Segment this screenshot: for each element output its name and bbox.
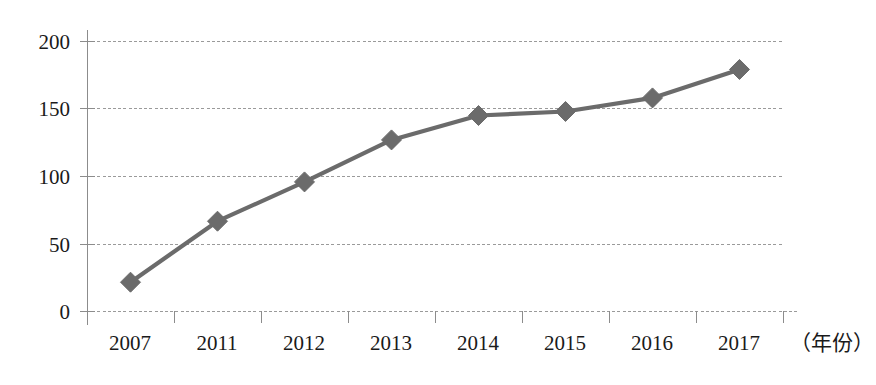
chart-canvas: 200 150 100 50 0 xyxy=(0,0,876,385)
data-series xyxy=(121,59,750,292)
data-point-2014 xyxy=(469,106,489,126)
data-point-2016 xyxy=(643,88,663,108)
data-point-2012 xyxy=(295,172,315,192)
y-axis-label-0: 0 xyxy=(60,300,71,324)
y-axis-label-100: 100 xyxy=(39,165,71,189)
y-axis-label-200: 200 xyxy=(39,30,71,54)
gridlines xyxy=(87,42,798,312)
x-axis-label-2012: 2012 xyxy=(283,331,325,355)
y-axis-label-150: 150 xyxy=(39,97,71,121)
x-axis-label-2015: 2015 xyxy=(544,331,586,355)
x-axis-label-2017: 2017 xyxy=(718,331,760,355)
series-markers xyxy=(121,59,750,292)
x-axis-label-2014: 2014 xyxy=(457,331,500,355)
data-point-2015 xyxy=(556,101,576,121)
x-axis-labels: 2007 2011 2012 2013 2014 2015 2016 2017 xyxy=(109,331,760,355)
x-axis-label-2016: 2016 xyxy=(631,331,673,355)
x-axis-title: （年份） xyxy=(790,331,874,355)
line-chart: 200 150 100 50 0 xyxy=(0,0,876,385)
x-axis-label-2013: 2013 xyxy=(370,331,412,355)
data-point-2013 xyxy=(382,130,402,150)
data-point-2017 xyxy=(730,59,750,79)
x-axis-label-2011: 2011 xyxy=(196,331,237,355)
x-tick-marks xyxy=(88,311,784,323)
y-axis-labels: 200 150 100 50 0 xyxy=(39,30,71,324)
x-axis-label-2007: 2007 xyxy=(109,331,151,355)
y-axis-label-50: 50 xyxy=(49,233,70,257)
